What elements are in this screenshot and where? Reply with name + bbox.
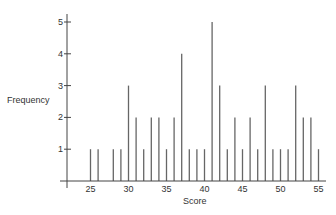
- frequency-chart: 12345 25303540455055 Frequency Score: [0, 0, 336, 215]
- y-tick-label: 4: [58, 49, 63, 59]
- x-tick-label: 35: [161, 184, 171, 194]
- x-ticks: 25303540455055: [85, 184, 323, 194]
- x-tick-label: 40: [199, 184, 209, 194]
- x-tick-label: 25: [85, 184, 95, 194]
- axes: [60, 14, 326, 188]
- bars: [91, 22, 319, 181]
- x-tick-label: 45: [237, 184, 247, 194]
- y-tick-label: 1: [58, 144, 63, 154]
- y-axis-label: Frequency: [7, 95, 50, 105]
- y-tick-label: 3: [58, 81, 63, 91]
- x-axis-label: Score: [183, 196, 207, 206]
- y-ticks: 12345: [58, 17, 71, 154]
- x-tick-label: 50: [275, 184, 285, 194]
- x-tick-label: 30: [123, 184, 133, 194]
- y-tick-label: 5: [58, 17, 63, 27]
- x-tick-label: 55: [313, 184, 323, 194]
- y-tick-label: 2: [58, 112, 63, 122]
